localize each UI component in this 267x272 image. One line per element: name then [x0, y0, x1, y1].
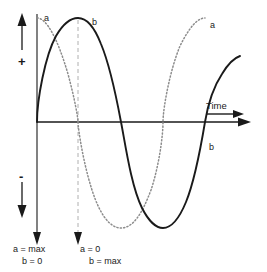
left-marker-line-1: a = max [13, 245, 45, 254]
positive-sign-label: + [18, 55, 26, 68]
time-direction-arrow [206, 110, 244, 118]
waveform-diagram: a b a b Time + - a = max b = 0 a = 0 b =… [0, 0, 267, 272]
curve-a-right-label: a [210, 21, 215, 30]
left-marker-line-2: b = 0 [13, 257, 45, 266]
negative-sign-label: - [19, 170, 23, 183]
curve-a-left-label: a [44, 14, 49, 23]
curve-b-top-label: b [92, 18, 97, 27]
negative-direction-arrow [18, 182, 27, 218]
curve-b-right-label: b [209, 143, 214, 152]
left-marker-annotation: a = max b = 0 [13, 245, 45, 266]
right-marker-annotation: a = 0 b = max [80, 245, 121, 266]
right-marker-line-1: a = 0 [80, 245, 121, 254]
right-marker-line-2: b = max [80, 257, 121, 266]
positive-direction-arrow [18, 13, 27, 50]
time-axis [37, 118, 251, 127]
time-axis-label: Time [206, 101, 227, 111]
curve-b-sine [37, 18, 240, 228]
waveform-plot [0, 0, 267, 272]
vertical-axis [33, 14, 41, 245]
quarter-period-marker [74, 20, 82, 245]
